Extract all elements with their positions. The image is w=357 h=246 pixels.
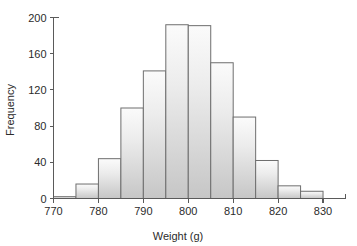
y-tick-label: 160 — [28, 48, 46, 60]
x-tick-label: 820 — [269, 205, 287, 217]
x-tick-label: 770 — [44, 205, 62, 217]
x-tick-label: 800 — [179, 205, 197, 217]
x-tick-label: 790 — [134, 205, 152, 217]
histogram-chart: 04080120160200770780790800810820830 Weig… — [0, 0, 357, 246]
x-tick-label: 830 — [314, 205, 332, 217]
bars-group — [54, 25, 324, 199]
x-tick-label: 810 — [224, 205, 242, 217]
y-tick-label: 80 — [34, 120, 46, 132]
y-axis-title: Frequency — [4, 84, 16, 136]
histogram-bar — [121, 108, 143, 199]
histogram-bar — [76, 184, 98, 198]
histogram-bar — [301, 191, 323, 198]
histogram-bar — [211, 63, 233, 199]
x-tick-label: 780 — [89, 205, 107, 217]
histogram-bar — [233, 117, 255, 198]
x-axis-title: Weight (g) — [153, 230, 204, 242]
y-tick-label: 200 — [28, 12, 46, 24]
y-tick-label: 40 — [34, 156, 46, 168]
histogram-bar — [278, 186, 300, 199]
chart-canvas: 04080120160200770780790800810820830 Weig… — [0, 0, 357, 246]
histogram-bar — [98, 159, 120, 199]
histogram-bar — [143, 71, 165, 199]
y-tick-label: 0 — [40, 193, 46, 205]
histogram-bar — [256, 160, 278, 198]
y-tick-label: 120 — [28, 84, 46, 96]
histogram-bar — [166, 25, 188, 199]
histogram-bar — [188, 26, 210, 199]
